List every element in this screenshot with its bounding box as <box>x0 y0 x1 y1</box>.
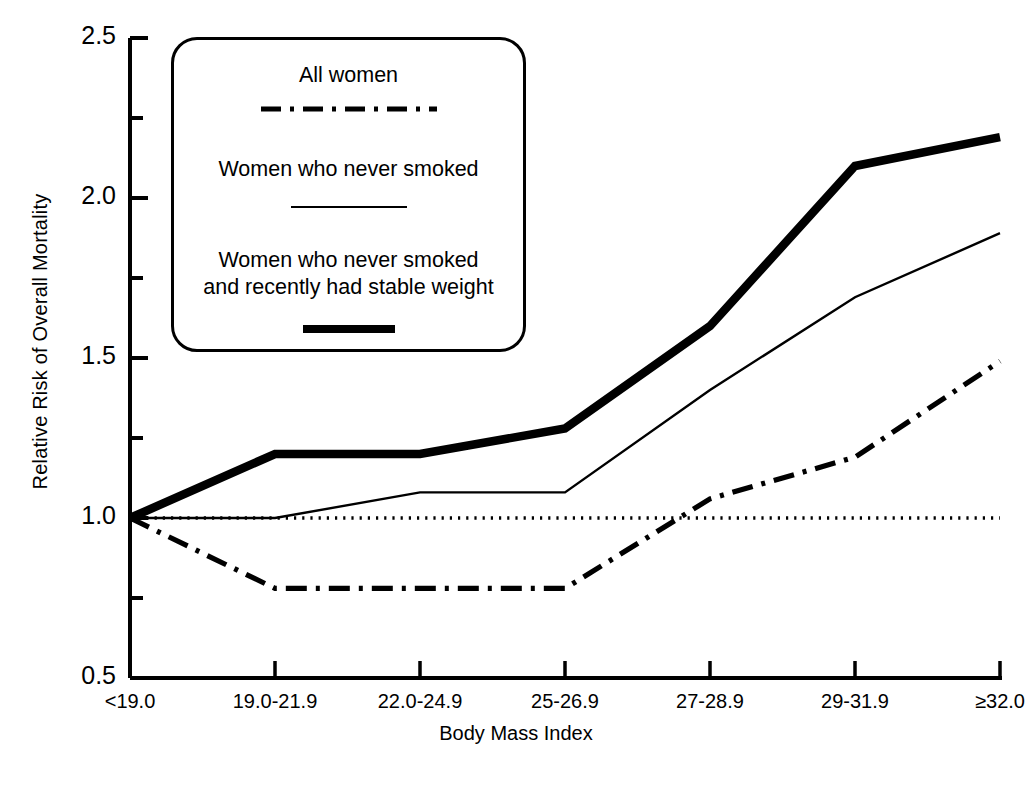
x-tick-label: <19.0 <box>105 690 156 713</box>
x-tick-label: 19.0-21.9 <box>233 690 318 713</box>
y-tick-label: 1.0 <box>46 501 116 530</box>
y-tick-label: 0.5 <box>46 661 116 690</box>
x-tick-label: 22.0-24.9 <box>378 690 463 713</box>
y-tick-label: 2.0 <box>46 181 116 210</box>
legend-swatch-all-women <box>174 102 523 116</box>
chart-figure: Relative Risk of Overall Mortality Body … <box>0 0 1032 793</box>
legend-label-all-women: All women <box>174 62 523 89</box>
legend: All women Women who never smoked Women w… <box>171 37 526 352</box>
legend-label-stable-weight-line1: Women who never smoked <box>174 247 523 274</box>
y-tick-label: 2.5 <box>46 21 116 50</box>
x-tick-label: ≥32.0 <box>975 690 1025 713</box>
legend-swatch-stable-weight <box>174 322 523 336</box>
x-tick-label: 29-31.9 <box>821 690 889 713</box>
legend-swatch-never-smoked <box>174 200 523 214</box>
x-tick-label: 25-26.9 <box>531 690 599 713</box>
y-tick-label: 1.5 <box>46 341 116 370</box>
legend-label-stable-weight-line2: and recently had stable weight <box>174 274 523 301</box>
x-tick-label: 27-28.9 <box>676 690 744 713</box>
series-line-0 <box>130 361 1000 588</box>
legend-label-never-smoked: Women who never smoked <box>174 156 523 183</box>
